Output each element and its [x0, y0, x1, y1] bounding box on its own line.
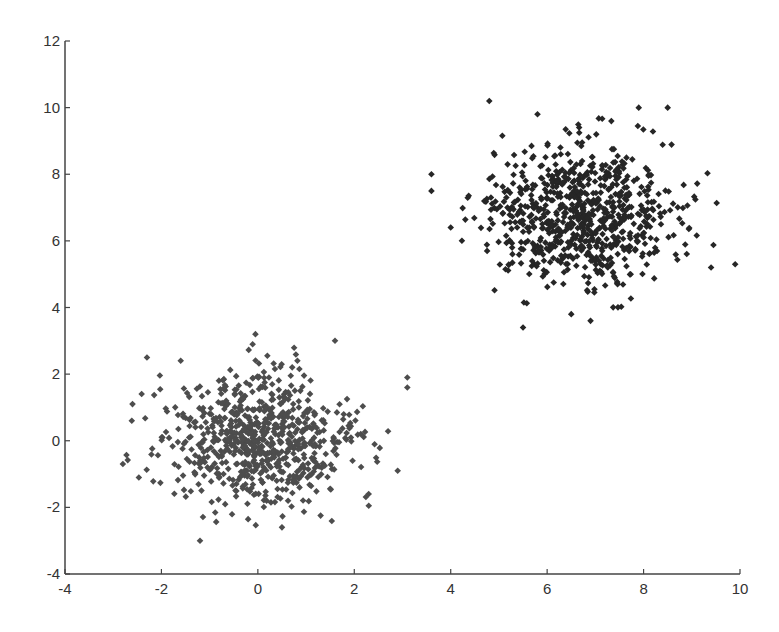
y-tick-label: 2 — [52, 365, 60, 382]
x-tick-label: 6 — [543, 580, 551, 597]
y-tick-label: 8 — [52, 165, 60, 182]
y-tick-label: -2 — [47, 498, 60, 515]
x-axis-ticks: -4-20246810 — [58, 569, 748, 597]
axes: -4-2024681012 -4-20246810 — [43, 32, 748, 597]
y-tick-label: 12 — [43, 32, 60, 49]
x-tick-label: -4 — [58, 580, 71, 597]
x-tick-label: 2 — [350, 580, 358, 597]
y-axis-ticks: -4-2024681012 — [43, 32, 70, 582]
y-tick-label: 0 — [52, 432, 60, 449]
series-cluster-1 — [120, 331, 411, 544]
x-tick-label: -2 — [155, 580, 168, 597]
x-tick-label: 8 — [639, 580, 647, 597]
x-tick-label: 0 — [254, 580, 262, 597]
scatter-chart: -4-2024681012 -4-20246810 — [0, 0, 779, 632]
data-points — [120, 98, 739, 544]
chart-canvas: -4-2024681012 -4-20246810 — [0, 0, 779, 632]
x-tick-label: 4 — [447, 580, 455, 597]
y-tick-label: 10 — [43, 99, 60, 116]
x-tick-label: 10 — [732, 580, 749, 597]
y-tick-label: 4 — [52, 299, 60, 316]
series-cluster-2 — [428, 98, 738, 331]
y-tick-label: 6 — [52, 232, 60, 249]
